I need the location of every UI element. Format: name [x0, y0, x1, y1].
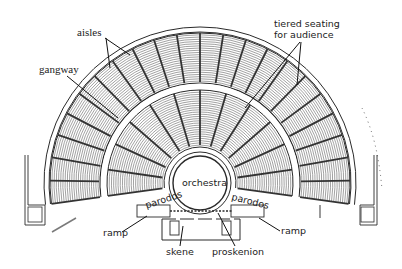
- theater-plan-svg: [0, 0, 402, 269]
- label-for-audience: for audience: [274, 30, 334, 40]
- skene-leader: [180, 226, 183, 246]
- outer-aisle: [50, 181, 99, 182]
- label-proskenion: proskenion: [212, 247, 264, 257]
- label-aisles: aisles: [77, 27, 101, 37]
- theater-plan-diagram: aisles gangway tiered seating for audien…: [0, 0, 402, 269]
- label-tiered-seating: tiered seating: [274, 19, 340, 29]
- right-wall-box: [361, 207, 374, 222]
- right-retaining-wall: [360, 155, 377, 225]
- label-orchestra: orchestra: [182, 178, 227, 188]
- skene-building: [162, 219, 240, 240]
- label-skene: skene: [166, 247, 194, 257]
- label-ramp-left: ramp: [103, 228, 128, 238]
- aisles-leader-1: [105, 38, 130, 55]
- proskenion-leader: [218, 213, 235, 246]
- label-ramp-right: ramp: [281, 226, 306, 236]
- label-gangway: gangway: [39, 64, 79, 74]
- outer-aisle: [300, 197, 349, 204]
- left-diagonal-ramp: [52, 218, 76, 232]
- ramp-right-leader: [259, 218, 280, 231]
- outer-aisle: [51, 197, 100, 204]
- left-wall-box: [28, 207, 42, 222]
- outer-aisle: [301, 181, 350, 182]
- right-outer-wall-trace: [362, 108, 382, 190]
- skene-left-room: [170, 221, 179, 235]
